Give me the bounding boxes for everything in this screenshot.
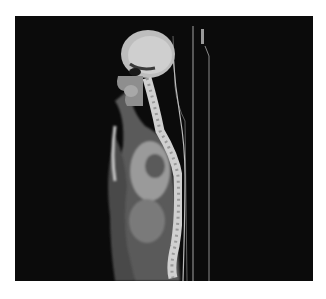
tube-marker xyxy=(201,29,204,44)
ct-scan-image xyxy=(15,16,313,281)
skull xyxy=(117,30,175,106)
sagittal-body-scan xyxy=(15,16,313,281)
